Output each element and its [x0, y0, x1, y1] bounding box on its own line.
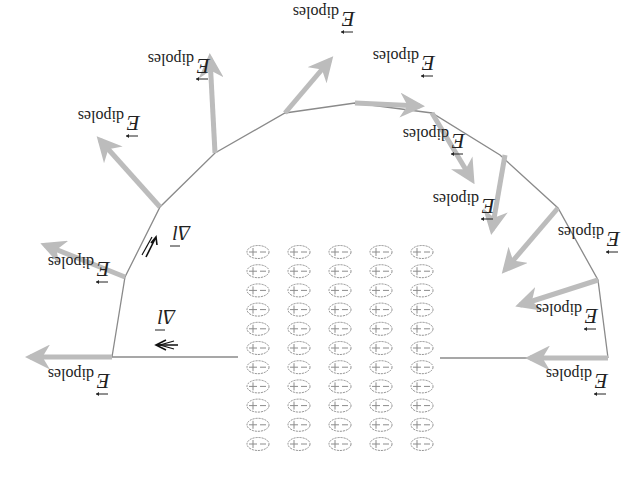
svg-text:E: E [96, 257, 111, 282]
dl-arrow-icon [142, 237, 157, 257]
svg-text:E: E [196, 54, 211, 79]
svg-text:dipoles: dipoles [293, 3, 339, 21]
e-dipoles-label: Edipoles [546, 365, 609, 396]
dipole-icon [370, 322, 392, 335]
svg-text:E: E [421, 51, 436, 76]
dipole-icon [247, 342, 269, 355]
dipole-icon [370, 380, 392, 393]
dipole-icon [288, 246, 310, 259]
dipole-icon [370, 265, 392, 278]
dl-markers: ΔlΔl [142, 222, 191, 350]
e-dipoles-label: Edipoles [293, 3, 356, 34]
dipole-icon [329, 342, 351, 355]
e-dipoles-label: Edipoles [558, 223, 621, 254]
dipole-icon [288, 418, 310, 431]
svg-text:dipoles: dipoles [48, 253, 94, 271]
svg-text:dipoles: dipoles [78, 107, 124, 125]
dipole-icon [411, 284, 433, 297]
dipole-icon [411, 418, 433, 431]
svg-text:E: E [594, 369, 609, 394]
svg-text:dipoles: dipoles [373, 47, 419, 65]
dipole-icon [370, 284, 392, 297]
dipole-icon [411, 322, 433, 335]
svg-text:E: E [584, 304, 599, 329]
dipole-icon [370, 342, 392, 355]
dipole-icon [247, 265, 269, 278]
dipole-icon [411, 380, 433, 393]
dipole-icon [288, 303, 310, 316]
dipole-icon [247, 284, 269, 297]
svg-text:dipoles: dipoles [558, 223, 604, 241]
dipole-icon [247, 399, 269, 412]
dipole-icon [329, 399, 351, 412]
e-dipoles-label: Edipoles [78, 107, 141, 138]
dipole-icon [411, 246, 433, 259]
svg-text:Δl: Δl [172, 222, 191, 244]
field-arrows [30, 58, 608, 358]
svg-text:E: E [341, 7, 356, 32]
svg-text:dipoles: dipoles [148, 50, 194, 68]
svg-text:E: E [96, 369, 111, 394]
svg-text:E: E [451, 129, 466, 154]
svg-text:E: E [606, 227, 621, 252]
svg-text:dipoles: dipoles [403, 125, 449, 143]
svg-text:E: E [126, 111, 141, 136]
dipole-icon [288, 399, 310, 412]
field-arrow-icon [355, 103, 420, 106]
dipole-icon [370, 361, 392, 374]
dipole-icon [329, 303, 351, 316]
dipole-icon [329, 361, 351, 374]
dipole-icon [370, 399, 392, 412]
field-arrow-icon [100, 140, 160, 207]
dipole-icon [411, 265, 433, 278]
dipole-icon [370, 246, 392, 259]
dipole-icon [247, 380, 269, 393]
dipole-icon [329, 246, 351, 259]
dipole-icon [329, 438, 351, 451]
dipole-icon [411, 399, 433, 412]
dl-label: Δl [170, 222, 191, 246]
dipole-icon [247, 418, 269, 431]
dipole-icon [247, 322, 269, 335]
e-dipoles-label: Edipoles [433, 190, 496, 221]
field-arrow-icon [285, 60, 330, 113]
dipole-icon [329, 284, 351, 297]
e-dipoles-label: Edipoles [373, 47, 436, 78]
dipole-icon [247, 438, 269, 451]
dipole-icon [329, 322, 351, 335]
svg-text:dipoles: dipoles [48, 365, 94, 383]
svg-text:dipoles: dipoles [433, 190, 479, 208]
dipole-icon [411, 342, 433, 355]
e-dipoles-label: Edipoles [48, 365, 111, 396]
dipole-icon [370, 438, 392, 451]
dipole-icon [247, 361, 269, 374]
dipole-icon [329, 418, 351, 431]
svg-text:dipoles: dipoles [536, 300, 582, 318]
dipole-icon [329, 265, 351, 278]
e-dipoles-label: Edipoles [403, 125, 466, 156]
svg-text:E: E [481, 194, 496, 219]
svg-text:dipoles: dipoles [546, 365, 592, 383]
dipole-icon [288, 380, 310, 393]
dipole-icon [329, 380, 351, 393]
dl-label: Δl [155, 306, 176, 330]
dipole-icon [288, 322, 310, 335]
svg-text:Δl: Δl [157, 306, 176, 328]
dipole-icon [370, 303, 392, 316]
dipole-icon [247, 303, 269, 316]
dipole-icon [247, 246, 269, 259]
e-dipoles-label: Edipoles [148, 50, 211, 81]
field-arrow-icon [505, 208, 558, 270]
dipole-icon [288, 265, 310, 278]
dipole-field-diagram: ΔlΔl EdipolesEdipolesEdipolesEdipolesEdi… [0, 0, 633, 500]
field-labels: EdipolesEdipolesEdipolesEdipolesEdipoles… [48, 3, 621, 396]
dl-arrow-icon [156, 340, 178, 350]
dipole-icon [370, 418, 392, 431]
dipole-icon [288, 342, 310, 355]
e-dipoles-label: Edipoles [48, 253, 111, 284]
dipole-icon [411, 303, 433, 316]
dipole-icon [411, 438, 433, 451]
dipole-icon [288, 284, 310, 297]
dipole-grid [247, 246, 433, 451]
dipole-icon [288, 438, 310, 451]
